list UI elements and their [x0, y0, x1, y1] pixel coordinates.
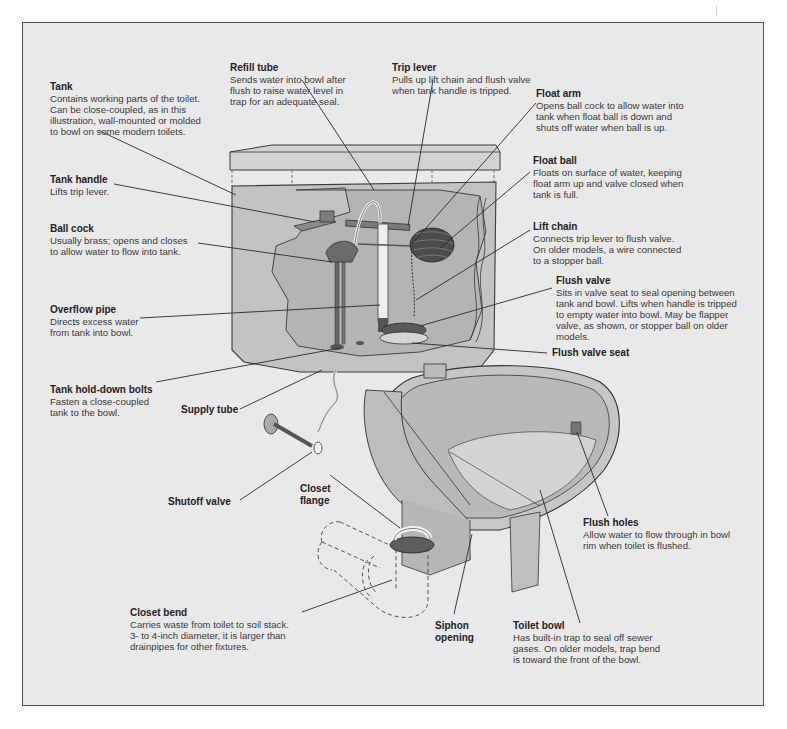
label-desc: Has built-in trap to seal off sewer gase… — [513, 632, 660, 665]
label-desc: Sends water into bowl after flush to rai… — [230, 74, 346, 107]
label-title: Flush valve — [556, 275, 737, 287]
label-shutoff-valve: Shutoff valve — [168, 496, 231, 508]
label-toilet-bowl: Toilet bowl Has built-in trap to seal of… — [513, 620, 660, 665]
label-desc: Connects trip lever to flush valve. On o… — [533, 233, 681, 266]
label-siphon-opening: Siphon opening — [435, 620, 474, 644]
label-ball-cock: Ball cock Usually brass; opens and close… — [50, 223, 188, 257]
label-title: Trip lever — [392, 62, 531, 74]
label-title: Lift chain — [533, 221, 681, 233]
toilet-bowl — [364, 364, 619, 592]
label-title: Refill tube — [230, 62, 346, 74]
label-flush-holes: Flush holes Allow water to flow through … — [583, 517, 730, 551]
label-title: Closet bend — [130, 607, 289, 619]
label-desc: Contains working parts of the toilet. Ca… — [50, 93, 201, 137]
label-title: Flush holes — [583, 517, 730, 529]
label-title: Ball cock — [50, 223, 188, 235]
label-tank-hold-down-bolts: Tank hold-down bolts Fasten a close-coup… — [50, 384, 153, 418]
label-float-arm: Float arm Opens ball cock to allow water… — [536, 88, 684, 133]
label-supply-tube: Supply tube — [181, 404, 238, 416]
label-desc: Pulls up lift chain and flush valve when… — [392, 74, 531, 96]
label-desc: Directs excess water from tank into bowl… — [50, 316, 139, 338]
float-ball — [410, 228, 454, 262]
label-desc: Lifts trip lever. — [50, 186, 109, 197]
label-title: Float arm — [536, 88, 684, 100]
label-title: Float ball — [533, 155, 683, 167]
label-desc: Fasten a close-coupled tank to the bowl. — [50, 396, 153, 418]
label-float-ball: Float ball Floats on surface of water, k… — [533, 155, 683, 200]
supply-and-shutoff — [264, 370, 337, 454]
label-desc: Carries waste from toilet to soil stack.… — [130, 619, 289, 652]
label-tank-handle: Tank handle Lifts trip lever. — [50, 174, 109, 197]
label-closet-flange: Closet flange — [300, 483, 331, 507]
label-closet-bend: Closet bend Carries waste from toilet to… — [130, 607, 289, 652]
label-title: Toilet bowl — [513, 620, 660, 632]
label-refill-tube: Refill tube Sends water into bowl after … — [230, 62, 346, 107]
label-desc: Usually brass; opens and closes to allow… — [50, 235, 188, 257]
label-overflow-pipe: Overflow pipe Directs excess water from … — [50, 304, 139, 338]
label-desc: Floats on surface of water, keeping floa… — [533, 167, 683, 200]
overflow-pipe — [378, 224, 388, 322]
label-tank: Tank Contains working parts of the toile… — [50, 81, 201, 137]
label-trip-lever: Trip lever Pulls up lift chain and flush… — [392, 62, 531, 96]
label-desc: Allow water to flow through in bowl rim … — [583, 529, 730, 551]
label-desc: Opens ball cock to allow water into tank… — [536, 100, 684, 133]
label-desc: Sits in valve seat to seal opening betwe… — [556, 287, 737, 342]
label-lift-chain: Lift chain Connects trip lever to flush … — [533, 221, 681, 266]
tank-lid — [230, 145, 500, 170]
label-title: Tank hold-down bolts — [50, 384, 153, 396]
label-title: Overflow pipe — [50, 304, 139, 316]
label-title: Tank — [50, 81, 201, 93]
label-title: Tank handle — [50, 174, 109, 186]
label-flush-valve-seat: Flush valve seat — [552, 347, 629, 359]
label-flush-valve: Flush valve Sits in valve seat to seal o… — [556, 275, 737, 342]
